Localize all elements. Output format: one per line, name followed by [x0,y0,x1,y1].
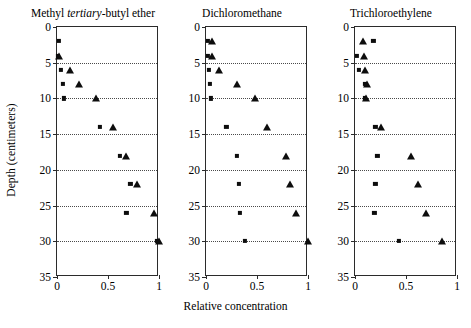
data-point-triangle [362,95,370,102]
x-tick-label: 0.5 [250,280,264,292]
gridline [57,170,157,171]
x-tick-mark [257,275,258,279]
data-point-square [224,125,228,129]
gridline [206,63,306,64]
y-tick-mark [351,98,355,99]
gridline [206,241,306,242]
gridline [355,206,455,207]
x-tick-mark [457,275,458,279]
data-point-triangle [304,238,312,245]
data-point-square [207,68,211,72]
x-tick-label: 1 [305,280,311,292]
data-point-triangle [155,238,163,245]
data-point-square [238,211,242,215]
x-tick-mark [206,275,207,279]
y-tick-label: 25 [189,200,201,212]
data-point-square [57,39,61,43]
y-tick-mark [202,27,206,28]
y-tick-label: 0 [194,21,200,33]
y-tick-mark [202,63,206,64]
y-tick-label: 25 [40,200,52,212]
x-tick-label: 0 [352,280,358,292]
y-tick-mark [351,170,355,171]
data-point-triangle [407,152,415,159]
y-tick-mark [351,27,355,28]
y-tick-mark [53,27,57,28]
x-tick-label: 0 [203,280,209,292]
panel-3: Trichloroethylene0510152025303500.51 [320,0,462,328]
y-tick-label: 15 [40,128,52,140]
plot-area: 0510152025303500.51 [205,26,307,276]
gridline [355,170,455,171]
gridline [57,134,157,135]
gridline [57,63,157,64]
plot-area: 0510152025303500.51 [56,26,158,276]
x-tick-mark [108,275,109,279]
data-point-triangle [251,95,259,102]
data-point-triangle [233,81,241,88]
x-axis-label: Relative concentration [0,300,471,312]
y-tick-label: 20 [189,164,201,176]
x-tick-mark [355,275,356,279]
data-point-triangle [109,124,117,131]
y-tick-label: 30 [40,235,52,247]
y-tick-mark [351,134,355,135]
y-tick-mark [53,206,57,207]
data-point-triangle [150,209,158,216]
data-point-square [243,239,247,243]
figure-container: Depth (centimeters) Methyl tertiary-buty… [0,0,471,328]
data-point-triangle [361,66,369,73]
data-point-triangle [363,81,371,88]
y-tick-mark [53,241,57,242]
x-tick-label: 1 [156,280,162,292]
data-point-square [209,96,213,100]
y-tick-label: 0 [45,21,51,33]
y-tick-label: 0 [343,21,349,33]
y-tick-label: 10 [189,92,201,104]
panels-container: Methyl tertiary-butyl ether0510152025303… [22,0,471,328]
y-tick-label: 35 [40,271,52,283]
data-point-square [59,68,63,72]
y-tick-label: 5 [343,57,349,69]
x-tick-mark [159,275,160,279]
y-tick-label: 15 [338,128,350,140]
data-point-triangle [282,152,290,159]
y-axis-label: Depth (centimeters) [5,103,17,197]
gridline [206,206,306,207]
gridline [57,98,157,99]
gridline [355,63,455,64]
y-tick-label: 20 [40,164,52,176]
y-tick-label: 15 [189,128,201,140]
data-point-square [208,82,212,86]
data-point-triangle [359,38,367,45]
data-point-square [371,39,375,43]
gridline [57,241,157,242]
panel-title: Trichloroethylene [320,6,462,20]
data-point-square [98,125,102,129]
data-point-triangle [92,95,100,102]
y-tick-label: 20 [338,164,350,176]
y-tick-label: 30 [338,235,350,247]
data-point-triangle [377,124,385,131]
data-point-square [237,182,241,186]
data-point-triangle [422,209,430,216]
panel-title: Methyl tertiary-butyl ether [22,6,164,20]
y-tick-label: 35 [189,271,201,283]
y-tick-label: 5 [45,57,51,69]
gridline [57,206,157,207]
y-axis-label-wrap: Depth (centimeters) [0,0,22,300]
data-point-triangle [286,181,294,188]
y-tick-mark [351,63,355,64]
data-point-triangle [438,238,446,245]
data-point-square [61,82,65,86]
panel-title: Dichloromethane [171,6,313,20]
y-tick-mark [53,170,57,171]
x-tick-label: 1 [454,280,460,292]
y-tick-mark [202,241,206,242]
data-point-triangle [292,209,300,216]
y-tick-mark [202,206,206,207]
data-point-triangle [208,38,216,45]
data-point-square [235,153,239,157]
y-tick-label: 35 [338,271,350,283]
panel-2: Dichloromethane0510152025303500.51 [171,0,313,328]
